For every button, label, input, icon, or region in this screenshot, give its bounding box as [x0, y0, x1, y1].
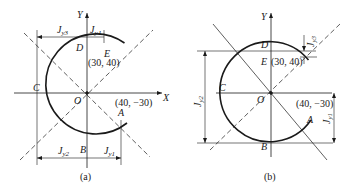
svg-text:Jy3: Jy3 [305, 35, 318, 47]
caption-b: (b) [264, 171, 276, 183]
svg-text:Jy3: Jy3 [57, 24, 69, 37]
svg-text:Jy4: Jy4 [90, 24, 102, 37]
svg-text:X: X [162, 92, 170, 103]
svg-text:B: B [261, 141, 267, 152]
svg-text:B: B [80, 144, 86, 155]
circular-arc [46, 34, 127, 134]
svg-text:Y: Y [77, 9, 84, 20]
svg-text:O: O [74, 95, 81, 106]
svg-text:(30, 40): (30, 40) [88, 57, 120, 69]
figure-canvas: Y X O D E (30, 40) C (40, −30) A B Jy3 J… [0, 0, 354, 193]
svg-text:A: A [117, 107, 125, 118]
svg-text:A: A [306, 114, 314, 125]
origin-dot [86, 92, 89, 95]
svg-text:E: E [260, 56, 267, 67]
svg-text:C: C [33, 82, 40, 93]
diagonal-line-dashed [210, 24, 340, 150]
svg-text:(30, 40): (30, 40) [271, 56, 303, 68]
caption-a: (a) [80, 171, 91, 183]
svg-text:Jy1: Jy1 [104, 145, 115, 158]
svg-text:Jy1: Jy1 [321, 113, 334, 124]
panel-b-labels: Y O D E (30, 40) C (40, −30) A B Jy3 Jy2… [192, 11, 334, 183]
svg-text:Jy2: Jy2 [58, 145, 70, 158]
origin-dot-b [270, 92, 273, 95]
svg-text:(40, −30): (40, −30) [296, 98, 333, 110]
svg-text:Jy2: Jy2 [192, 95, 205, 107]
svg-text:D: D [75, 42, 84, 53]
svg-text:Y: Y [261, 11, 268, 22]
svg-text:D: D [260, 39, 269, 50]
svg-text:C: C [219, 82, 226, 93]
svg-text:O: O [257, 94, 264, 105]
